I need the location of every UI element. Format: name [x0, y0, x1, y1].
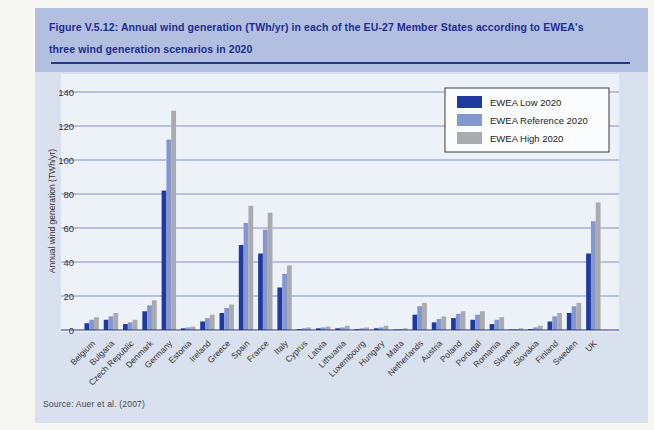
bar-Belgium-high: [94, 317, 99, 330]
bar-UK-high: [596, 203, 601, 331]
bar-Spain-low: [239, 245, 244, 330]
bar-Romania-low: [490, 324, 495, 330]
bar-Czech Republic-high: [133, 320, 138, 330]
bar-Slovakia-high: [538, 326, 543, 330]
bar-Hungary-high: [383, 326, 388, 330]
bar-Bulgaria-high: [113, 313, 118, 330]
legend-label-reference: EWEA Reference 2020: [490, 115, 588, 126]
legend-label-low: EWEA Low 2020: [490, 97, 561, 108]
x-tick-label: UK: [583, 338, 599, 354]
legend-swatch-reference: [457, 114, 482, 126]
bar-Spain-high: [248, 206, 253, 330]
bar-Poland-reference: [456, 314, 461, 330]
y-tick-label: 60: [63, 223, 74, 234]
bar-Portugal-high: [480, 311, 485, 330]
bar-Czech Republic-reference: [128, 322, 133, 330]
bar-Finland-low: [548, 322, 553, 331]
legend: EWEA Low 2020EWEA Reference 2020EWEA Hig…: [445, 88, 609, 152]
bar-Italy-reference: [282, 274, 287, 330]
bar-Denmark-low: [142, 311, 147, 330]
chart-svg: 020406080100120140BelgiumBulgariaCzech R…: [47, 74, 637, 408]
y-axis-title: Annual wind generation (TWh/yr): [47, 149, 57, 273]
bar-Italy-low: [277, 288, 282, 331]
bar-Poland-high: [461, 311, 466, 330]
bar-Sweden-reference: [572, 306, 577, 330]
bar-Ireland-high: [210, 315, 215, 330]
figure-panel: Figure V.5.12: Annual wind generation (T…: [35, 8, 648, 423]
y-tick-label: 140: [58, 87, 74, 98]
bar-Sweden-high: [576, 303, 581, 330]
bar-Germany-high: [171, 111, 176, 330]
bar-France-low: [258, 254, 263, 331]
bar-Sweden-low: [567, 313, 572, 330]
bar-Austria-reference: [437, 319, 442, 330]
bar-Netherlands-low: [412, 315, 417, 330]
source-note: Source: Auer et al. (2007): [43, 399, 145, 409]
legend-swatch-low: [457, 96, 482, 108]
bar-Italy-high: [287, 265, 292, 330]
bar-Germany-low: [162, 191, 167, 330]
bar-Netherlands-high: [422, 303, 427, 330]
bar-Poland-low: [451, 318, 456, 330]
bar-Bulgaria-reference: [109, 316, 114, 330]
title-underline: [51, 62, 630, 64]
legend-swatch-high: [457, 132, 482, 144]
legend-label-high: EWEA High 2020: [490, 133, 563, 144]
bar-Romania-reference: [494, 320, 499, 330]
bar-Belgium-reference: [89, 320, 94, 330]
y-tick-label: 120: [58, 121, 74, 132]
bar-UK-low: [586, 254, 591, 331]
x-tick-label: Cyprus: [283, 338, 309, 364]
bar-UK-reference: [591, 221, 596, 330]
bar-Austria-low: [432, 322, 437, 330]
bar-Greece-reference: [224, 308, 229, 330]
y-tick-label: 20: [63, 291, 74, 302]
bar-Ireland-reference: [205, 318, 210, 330]
bar-Germany-reference: [166, 140, 171, 330]
bar-Spain-reference: [244, 223, 249, 330]
bar-Netherlands-reference: [417, 306, 422, 330]
figure-titlebar: Figure V.5.12: Annual wind generation (T…: [35, 8, 648, 72]
bar-France-reference: [263, 230, 268, 330]
x-tick-label: France: [245, 338, 271, 364]
bar-Portugal-reference: [475, 315, 480, 330]
y-tick-label: 40: [63, 257, 74, 268]
bar-Greece-high: [229, 305, 234, 331]
bar-Finland-reference: [552, 316, 557, 330]
bar-Finland-high: [557, 313, 562, 330]
bar-Denmark-reference: [147, 305, 152, 330]
y-tick-label: 80: [63, 189, 74, 200]
bar-Denmark-high: [152, 300, 157, 330]
bar-Bulgaria-low: [104, 320, 109, 330]
bar-Ireland-low: [200, 322, 205, 331]
bar-France-high: [268, 213, 273, 330]
figure-title: Figure V.5.12: Annual wind generation (T…: [49, 17, 632, 60]
wind-generation-chart: 020406080100120140BelgiumBulgariaCzech R…: [47, 74, 637, 408]
bar-Greece-low: [220, 313, 225, 330]
bar-Portugal-low: [470, 320, 475, 330]
bar-Romania-high: [499, 317, 504, 330]
bar-Belgium-low: [84, 323, 89, 330]
bar-Austria-high: [441, 316, 446, 330]
y-tick-label: 100: [58, 155, 74, 166]
bar-Czech Republic-low: [123, 324, 128, 330]
bar-Lithuania-high: [345, 326, 350, 330]
